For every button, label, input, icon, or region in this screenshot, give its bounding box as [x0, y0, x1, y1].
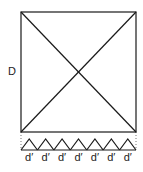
triangle: [21, 139, 37, 150]
triangle: [120, 139, 136, 150]
segment-label: d′: [58, 151, 66, 163]
triangle: [103, 139, 119, 150]
segment-label: d′: [107, 151, 115, 163]
triangle: [70, 139, 86, 150]
segment-label: d′: [42, 151, 50, 163]
square-diagram: D d′d′d′d′d′d′d′: [0, 0, 143, 172]
triangle: [87, 139, 103, 150]
segment-label: d′: [74, 151, 82, 163]
side-label: D: [8, 65, 16, 77]
segment-labels: d′d′d′d′d′d′d′: [25, 151, 132, 163]
triangle-row: [21, 139, 136, 150]
segment-label: d′: [124, 151, 132, 163]
triangle: [37, 139, 53, 150]
segment-label: d′: [91, 151, 99, 163]
triangle: [54, 139, 70, 150]
segment-label: d′: [25, 151, 33, 163]
